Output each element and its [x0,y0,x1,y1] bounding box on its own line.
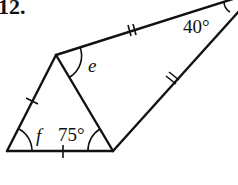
angle-label-75: 75° [58,124,85,145]
left-side [7,55,56,151]
geometry-figure: 12. [0,0,238,185]
angle-label-f: f [36,125,44,146]
angle-label-40: 40° [183,16,210,37]
angle-arc-e [70,47,82,77]
angle-arc-40 [224,2,230,12]
angle-arc-75 [88,129,100,151]
problem-number: 12. [0,0,26,19]
angle-label-e: e [88,55,96,76]
figure-svg: 12. [0,0,238,185]
angle-arc-f [19,129,32,151]
